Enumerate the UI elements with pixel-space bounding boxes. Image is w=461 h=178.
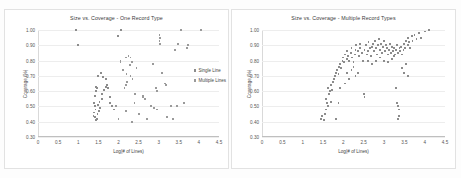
data-point (398, 109, 400, 111)
data-point (159, 40, 161, 42)
x-axis-tick-label: 3 (157, 140, 160, 145)
data-point (327, 87, 329, 89)
x-axis-tick-label: 3.5 (176, 140, 182, 145)
data-point (379, 49, 381, 51)
data-point (387, 61, 389, 63)
data-point (161, 72, 163, 74)
data-point (359, 43, 361, 45)
y-axis-tick-label: 0.80 (250, 58, 259, 63)
legend-marker-icon (194, 69, 196, 71)
data-point (363, 93, 365, 95)
data-point (102, 76, 104, 78)
data-point (166, 116, 168, 118)
y-axis-tick-label: 0.60 (250, 89, 259, 94)
data-point (339, 63, 341, 65)
data-point (159, 34, 161, 36)
y-axis-tick-label: 0.70 (26, 73, 35, 78)
data-point (174, 49, 176, 51)
data-point (111, 105, 113, 107)
data-point (403, 43, 405, 45)
data-point (138, 113, 140, 115)
gridline (38, 122, 219, 123)
data-point (129, 64, 131, 66)
data-point (407, 44, 409, 46)
data-point (324, 113, 326, 115)
data-point (347, 55, 349, 57)
data-point (325, 109, 327, 111)
data-point (97, 104, 99, 106)
x-axis-tick-label: 1 (301, 140, 304, 145)
x-axis-tick-label: 2.5 (135, 140, 141, 145)
data-point (357, 72, 359, 74)
data-point (375, 47, 377, 49)
data-point (346, 72, 348, 74)
data-point (115, 105, 117, 107)
data-point (200, 29, 202, 31)
data-point (330, 101, 332, 103)
data-point (391, 58, 393, 60)
data-point (97, 75, 99, 77)
gridline (38, 106, 219, 107)
data-point (333, 78, 335, 80)
data-point (379, 57, 381, 59)
data-point (122, 69, 124, 71)
y-axis-tick-label: 0.40 (250, 119, 259, 124)
x-axis-tick-label: 2 (342, 140, 345, 145)
data-point (330, 84, 332, 86)
gridline (38, 61, 219, 62)
data-point (144, 98, 146, 100)
data-point (186, 47, 188, 49)
y-axis-tick-label: 0.50 (250, 104, 259, 109)
data-point (424, 31, 426, 33)
data-point (408, 41, 410, 43)
x-axis-tick-label: 1.5 (95, 140, 101, 145)
data-point (395, 87, 397, 89)
data-point (126, 73, 128, 75)
y-axis-tick-label: 0.70 (250, 73, 259, 78)
y-axis-tick-label: 0.90 (250, 43, 259, 48)
x-axis-tick-label: 1.5 (320, 140, 326, 145)
y-axis-tick-label: 0.30 (250, 135, 259, 140)
x-axis-tick-label: 4 (198, 140, 201, 145)
x-axis-label-right: Log(# of Lines) (262, 149, 445, 154)
data-point (172, 118, 174, 120)
data-point (117, 35, 119, 37)
data-point (107, 87, 109, 89)
data-point (120, 29, 122, 31)
data-point (382, 46, 384, 48)
data-point (170, 105, 172, 107)
data-point (388, 49, 390, 51)
data-point (159, 43, 161, 45)
data-point (371, 46, 373, 48)
data-point (384, 50, 386, 52)
data-point (414, 34, 416, 36)
data-point (95, 90, 97, 92)
data-point (359, 47, 361, 49)
data-point (334, 75, 336, 77)
data-point (374, 40, 376, 42)
legend-label-single-line: Single Line (198, 68, 220, 73)
data-point (354, 54, 356, 56)
data-point (153, 107, 155, 109)
data-point (131, 121, 133, 123)
gridline (262, 137, 445, 138)
data-point (156, 109, 158, 111)
data-point (159, 37, 161, 39)
data-point (383, 60, 385, 62)
x-axis-tick-label: 1 (77, 140, 80, 145)
legend-item-multiple-lines: Multiple Lines (194, 78, 226, 83)
data-point (344, 83, 346, 85)
y-axis-tick-label: 0.60 (26, 89, 35, 94)
gridline (262, 45, 445, 46)
y-axis-tick-label: 0.50 (26, 104, 35, 109)
gridline (262, 76, 445, 77)
x-axis-tick-label: 4.5 (442, 140, 448, 145)
data-point (392, 50, 394, 52)
x-axis-tick-label: 4.5 (216, 140, 222, 145)
data-point (93, 112, 95, 114)
data-point (396, 102, 398, 104)
data-point (355, 44, 357, 46)
x-axis-tick-label: 4 (423, 140, 426, 145)
data-point (364, 96, 366, 98)
data-point (95, 86, 97, 88)
